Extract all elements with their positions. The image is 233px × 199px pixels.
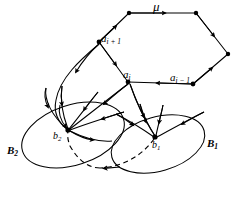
hexagon-cycle-edges [99, 13, 228, 84]
label-B-1: B1 [207, 138, 218, 151]
curve-ai-to-b2 [70, 84, 128, 129]
label-mu: μ [153, 0, 160, 13]
vertex-b-2 [65, 127, 70, 132]
arrowhead-ai-b2 [104, 84, 128, 104]
label-b-2-subscript: 2 [58, 135, 61, 142]
label-a-i-minus-1: ai − 1 [170, 72, 190, 85]
arrowhead-aip1-b2-upper [76, 44, 99, 72]
arrowhead-inflow-b1-mid-right [159, 105, 163, 123]
label-a-i-minus-1-subscript: i − 1 [176, 76, 191, 85]
label-b-2: b2 [53, 131, 61, 143]
arrowhead-aim1-right [193, 68, 212, 84]
label-B-2-subscript: 2 [14, 149, 18, 158]
arrowhead-inflow-b2-left [61, 86, 62, 105]
vertex-a-i-minus-1 [191, 82, 196, 87]
arrowhead-inflow-b1-right [182, 112, 204, 124]
vertex-hex-top-right [194, 11, 198, 15]
vertex-hex-right [226, 52, 230, 56]
diagram-svg [0, 0, 233, 199]
figure-canvas: μ ai + 1 ai ai − 1 b2 b1 B2 B1 [0, 0, 233, 199]
curve-ai-to-b1 [130, 84, 155, 136]
arrowhead-dashed-b1-b2 [104, 167, 120, 168]
label-a-i-plus-1-subscript: i + 1 [107, 37, 122, 46]
label-a-i: ai [123, 69, 131, 82]
label-b-1: b1 [152, 140, 160, 152]
label-B-2: B2 [7, 145, 18, 158]
incoming-arrows-b1 [116, 104, 204, 137]
label-B-1-subscript: 1 [214, 142, 218, 151]
ellipse-B2 [13, 90, 132, 180]
arrowhead-inflow-b2-right-upper [84, 92, 98, 110]
vertex-hex-top-left [127, 11, 131, 15]
arrowhead-inflow-b2-right [102, 112, 124, 119]
label-b-1-subscript: 1 [157, 144, 160, 151]
inflow-b1-mid-left [140, 104, 155, 136]
graph-vertices [65, 11, 230, 140]
label-a-i-subscript: i [129, 73, 131, 82]
label-a-i-plus-1: ai + 1 [101, 33, 121, 46]
inflow-b2-far-left [46, 88, 67, 129]
arrowhead-topright-right [196, 13, 214, 36]
